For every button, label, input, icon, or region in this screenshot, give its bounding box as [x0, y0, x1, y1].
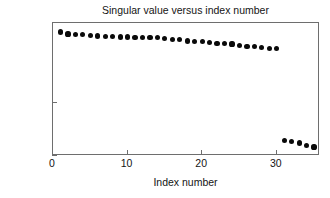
x-tick-label: 30 — [264, 157, 288, 169]
x-tick-label: 10 — [115, 157, 139, 169]
data-point — [80, 32, 85, 37]
data-point — [58, 29, 63, 34]
data-point — [132, 35, 137, 40]
x-axis-label: Index number — [52, 176, 319, 189]
y-tick-mark — [52, 102, 57, 103]
figure-container: Singular value versus index number Singu… — [0, 0, 330, 198]
x-tick-mark — [52, 150, 53, 155]
data-point — [274, 46, 279, 51]
data-point — [297, 140, 302, 145]
data-point — [118, 34, 123, 39]
data-point — [147, 35, 152, 40]
x-tick-mark — [276, 150, 277, 155]
data-point — [103, 34, 108, 39]
scatter-series — [53, 23, 318, 154]
data-point — [207, 40, 212, 45]
data-point — [229, 41, 234, 46]
data-point — [311, 144, 316, 149]
data-point — [110, 34, 115, 39]
y-tick-mark — [52, 22, 57, 23]
data-point — [200, 39, 205, 44]
x-tick-mark — [127, 150, 128, 155]
data-point — [289, 139, 294, 144]
data-point — [73, 32, 78, 37]
x-tick-label: 0 — [40, 157, 64, 169]
data-point — [95, 33, 100, 38]
data-point — [155, 35, 160, 40]
data-point — [214, 41, 219, 46]
data-point — [88, 33, 93, 38]
data-point — [125, 34, 130, 39]
x-tick-label: 20 — [189, 157, 213, 169]
data-point — [282, 138, 287, 143]
y-tick-mark — [52, 155, 57, 156]
data-point — [192, 39, 197, 44]
data-point — [244, 44, 249, 49]
data-point — [304, 143, 309, 148]
data-point — [267, 46, 272, 51]
data-point — [252, 44, 257, 49]
data-point — [170, 37, 175, 42]
data-point — [237, 43, 242, 48]
data-point — [162, 36, 167, 41]
chart-title: Singular value versus index number — [52, 4, 319, 17]
x-tick-mark — [201, 150, 202, 155]
data-point — [177, 37, 182, 42]
plot-area — [52, 22, 319, 155]
data-point — [259, 45, 264, 50]
data-point — [140, 35, 145, 40]
data-point — [185, 38, 190, 43]
data-point — [65, 31, 70, 36]
data-point — [222, 41, 227, 46]
